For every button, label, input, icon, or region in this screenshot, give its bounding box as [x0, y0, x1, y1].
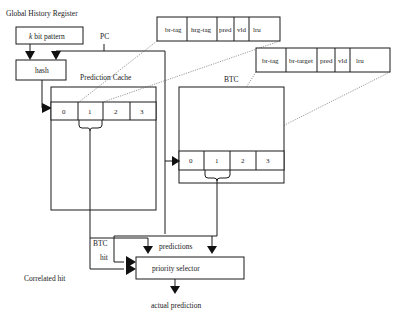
field-br-tag: br-tag	[262, 57, 279, 65]
btc: 0 1 2 3	[179, 87, 284, 183]
correlated-hit-label: Correlated hit	[24, 274, 66, 283]
k-bit-pattern-box: k bit pattern	[16, 27, 83, 44]
prediction-cache-title: Prediction Cache	[80, 73, 132, 82]
prediction-cache: 0 1 2 3	[51, 87, 156, 210]
priority-selector: priority selector	[136, 257, 244, 279]
prediction-cache-entry: br-tag hrg-tag pred vld lru	[157, 17, 280, 41]
cache-way-3: 3	[140, 108, 144, 116]
global-history-register-label: Global History Register	[6, 9, 78, 18]
predictions-label: predictions	[159, 242, 192, 251]
arrow-down-icon	[51, 51, 61, 60]
hash-label: hash	[35, 66, 49, 75]
field-vld: vld	[237, 26, 246, 34]
btc-way-2: 2	[241, 157, 245, 165]
field-br-target: br-target	[289, 57, 313, 65]
btc-hit-label-line2: hit	[100, 253, 109, 262]
btc-title: BTC	[224, 75, 239, 84]
actual-prediction-label: actual prediction	[151, 301, 201, 310]
field-lru: lru	[356, 57, 364, 65]
field-pred: pred	[320, 57, 333, 65]
btc-way-3: 3	[266, 157, 270, 165]
svg-text:k bit pattern: k bit pattern	[29, 32, 65, 41]
cache-way-2: 2	[114, 108, 118, 116]
field-lru: lru	[253, 26, 261, 34]
field-pred: pred	[219, 26, 232, 34]
field-vld: vld	[338, 57, 347, 65]
field-br-tag: br-tag	[165, 26, 182, 34]
arrow-down-icon	[170, 286, 180, 294]
cache-way-1: 1	[88, 108, 92, 116]
priority-selector-label: priority selector	[152, 264, 200, 273]
pc-label: PC	[100, 32, 109, 41]
btc-hit-label-line1: BTC	[93, 239, 108, 248]
arrow-down-icon	[143, 246, 153, 254]
btc-output-line	[151, 181, 217, 236]
btc-entry: br-tag br-target pred vld lru	[256, 48, 390, 72]
cache-way-0: 0	[62, 108, 66, 116]
hash-box: hash	[16, 60, 66, 80]
arrow-down-icon	[25, 51, 35, 60]
branch-prediction-diagram: Global History Register k bit pattern PC…	[0, 0, 394, 317]
pattern-text: bit pattern	[32, 32, 65, 41]
btc-way-1: 1	[215, 157, 219, 165]
btc-way-0: 0	[189, 157, 193, 165]
field-hrg-tag: hrg-tag	[191, 26, 212, 34]
arrow-down-icon	[207, 246, 217, 254]
